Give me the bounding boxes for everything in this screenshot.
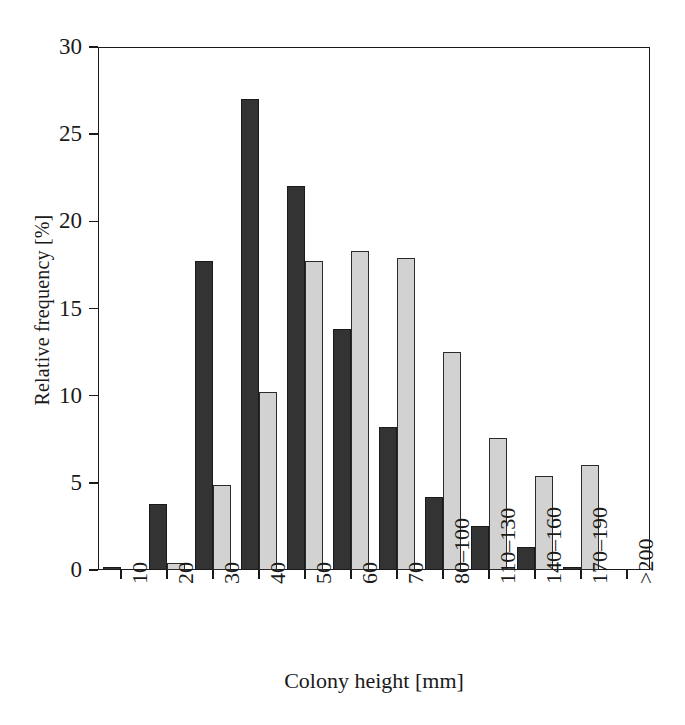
- y-tick-label: 10: [59, 381, 82, 411]
- x-tick-label: 140–160: [543, 507, 565, 584]
- y-tick-mark: [89, 46, 98, 48]
- x-tick-label: 110–130: [497, 508, 519, 584]
- bars-layer: [98, 47, 650, 570]
- bar-dark-50: [287, 186, 305, 570]
- y-tick-label: 0: [71, 555, 83, 585]
- x-tick-mark: [258, 570, 260, 579]
- bar-light-30: [213, 485, 231, 570]
- x-tick-label: 40: [267, 562, 289, 584]
- bar-dark-60: [333, 329, 351, 570]
- y-tick-mark: [89, 395, 98, 397]
- x-tick-mark: [212, 570, 214, 579]
- bar-light-70: [397, 258, 415, 570]
- bar-dark-70: [379, 427, 397, 570]
- x-tick-mark: [442, 570, 444, 579]
- bar-light-40: [259, 392, 277, 570]
- x-axis-title: Colony height [mm]: [98, 668, 650, 694]
- y-axis-title: Relative frequency [%]: [24, 30, 60, 590]
- x-tick-label: 30: [221, 562, 243, 584]
- bar-dark-20: [149, 504, 167, 570]
- x-tick-mark: [166, 570, 168, 579]
- x-tick-mark: [626, 570, 628, 579]
- bar-dark-80–100: [425, 497, 443, 570]
- bar-dark-10: [103, 567, 121, 570]
- bar-light-60: [351, 251, 369, 570]
- y-tick-label: 25: [59, 119, 82, 149]
- y-tick-mark: [89, 133, 98, 135]
- x-tick-mark: [304, 570, 306, 579]
- x-tick-mark: [488, 570, 490, 579]
- y-tick-label: 5: [71, 468, 83, 498]
- bar-light-50: [305, 261, 323, 570]
- y-tick-mark: [89, 482, 98, 484]
- x-tick-mark: [350, 570, 352, 579]
- x-tick-label: 80–100: [451, 518, 473, 584]
- bar-dark-40: [241, 99, 259, 570]
- y-tick-mark: [89, 308, 98, 310]
- x-tick-mark: [120, 570, 122, 579]
- chart-container: Relative frequency [%] 051015202530 1020…: [0, 0, 685, 725]
- x-tick-label: 20: [175, 562, 197, 584]
- x-tick-label: 60: [359, 562, 381, 584]
- x-tick-mark: [580, 570, 582, 579]
- x-tick-label: 10: [129, 562, 151, 584]
- y-tick-label: 30: [59, 32, 82, 62]
- x-tick-label: 170–190: [589, 507, 611, 584]
- y-tick-mark: [89, 221, 98, 223]
- x-tick-label: >200: [635, 539, 657, 584]
- x-tick-mark: [396, 570, 398, 579]
- x-tick-label: 50: [313, 562, 335, 584]
- y-tick-label: 20: [59, 206, 82, 236]
- x-tick-label: 70: [405, 562, 427, 584]
- x-tick-mark: [534, 570, 536, 579]
- y-tick-label: 15: [59, 294, 82, 324]
- y-tick-mark: [89, 569, 98, 571]
- bar-dark-30: [195, 261, 213, 570]
